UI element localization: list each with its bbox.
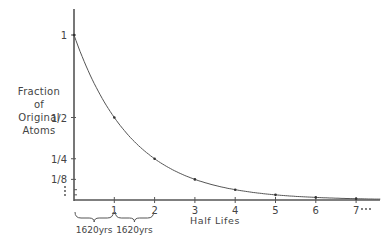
data-point xyxy=(315,196,318,199)
x-tick-label: 2 xyxy=(151,205,157,216)
y-tick-label: 1/2 xyxy=(51,113,67,124)
data-point xyxy=(234,188,237,191)
x-tick-label: 1 xyxy=(111,205,117,216)
x-continuation-dot xyxy=(365,208,367,210)
brace-label: 1620yrs xyxy=(116,225,153,235)
x-continuation-dot xyxy=(361,208,363,210)
x-axis-label: Half Lifes xyxy=(190,215,240,226)
data-point xyxy=(113,116,116,119)
y-continuation-dot xyxy=(64,194,66,196)
y-tick-label: 1/8 xyxy=(51,174,67,185)
decay-chart: 11/21/41/81234567Half Lifes 1620yrs1620y… xyxy=(0,0,391,245)
y-tick-label: 1/4 xyxy=(51,154,67,165)
brace xyxy=(75,212,113,222)
data-point xyxy=(153,157,156,160)
brace xyxy=(115,212,153,222)
x-continuation-dot xyxy=(369,208,371,210)
x-tick-label: 5 xyxy=(272,205,278,216)
x-tick-label: 6 xyxy=(313,205,319,216)
y-tick-label: 1 xyxy=(61,30,67,41)
axes: 11/21/41/81234567Half Lifes xyxy=(51,9,380,226)
data-point xyxy=(194,178,197,181)
data-point xyxy=(73,34,76,37)
data-point xyxy=(274,194,277,197)
x-tick-label: 7 xyxy=(353,205,359,216)
decay-curve xyxy=(73,34,381,200)
brace-label: 1620yrs xyxy=(76,225,113,235)
y-continuation-dot xyxy=(64,186,66,188)
y-continuation-dot xyxy=(64,190,66,192)
data-point xyxy=(355,197,358,200)
decay-curve-line xyxy=(74,35,380,199)
